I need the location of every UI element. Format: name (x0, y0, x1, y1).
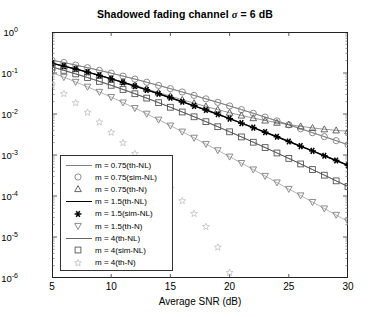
x-axis-label: Average SNR (dB) (52, 296, 348, 307)
legend-label: m = 0.75(sim-NL) (94, 173, 157, 182)
legend-key-line-grey (64, 159, 94, 171)
y-tick-label: 10-6 (0, 272, 18, 284)
legend-label: m = 1.5(th-N) (94, 222, 142, 231)
legend-marker-circle (73, 172, 83, 182)
y-tick-label: 10-4 (0, 190, 18, 202)
legend-line-sample (66, 165, 92, 166)
y-tick-label: 100 (0, 26, 18, 38)
x-tick-label: 20 (224, 281, 235, 292)
y-tick-label: 10-5 (0, 231, 18, 243)
legend-key-triangle-down (64, 220, 94, 232)
legend-marker-square (73, 245, 83, 255)
x-tick-label: 5 (49, 281, 55, 292)
legend-item[interactable]: m = 1.5(th-N) (61, 220, 172, 232)
legend-marker-star (73, 258, 83, 268)
chart-title-prefix: Shadowed fading channel (97, 8, 232, 20)
legend-key-square (64, 244, 94, 256)
legend-item[interactable]: m = 1.5(sim-NL) (61, 208, 172, 220)
legend-item[interactable]: m = 4(th-N) (61, 257, 172, 269)
legend-key-triangle-up (64, 183, 94, 195)
legend-label: m = 1.5(sim-NL) (94, 209, 153, 218)
figure: Shadowed fading channel σ = 6 dB Average… (0, 0, 370, 317)
legend-marker-asterisk (73, 209, 83, 219)
x-tick-label: 30 (342, 281, 353, 292)
legend-item[interactable]: m = 4(th-NL) (61, 232, 172, 244)
legend-key-line-black (64, 196, 94, 208)
legend-key-asterisk (64, 208, 94, 220)
legend-label: m = 1.5(th-NL) (94, 197, 147, 206)
legend-item[interactable]: m = 4(sim-NL) (61, 244, 172, 256)
legend-line-sample (66, 201, 92, 203)
y-tick-label: 10-1 (0, 67, 18, 79)
x-tick-label: 10 (106, 281, 117, 292)
chart-title-suffix: = 6 dB (238, 8, 273, 20)
legend-label: m = 4(th-N) (94, 258, 136, 267)
legend-marker-triangle-up (73, 184, 83, 194)
x-tick-label: 25 (283, 281, 294, 292)
legend-key-star (64, 257, 94, 269)
chart-title: Shadowed fading channel σ = 6 dB (0, 8, 370, 20)
legend-marker-triangle-down (73, 221, 83, 231)
legend-label: m = 0.75(th-NL) (94, 161, 151, 170)
legend-item[interactable]: m = 0.75(th-N) (61, 183, 172, 195)
x-tick-label: 15 (165, 281, 176, 292)
legend-key-line-dark (64, 232, 94, 244)
legend: m = 0.75(th-NL)m = 0.75(sim-NL)m = 0.75(… (60, 155, 173, 271)
y-tick-label: 10-3 (0, 149, 18, 161)
legend-label: m = 0.75(th-N) (94, 185, 147, 194)
legend-line-sample (66, 238, 92, 239)
y-tick-label: 10-2 (0, 108, 18, 120)
legend-item[interactable]: m = 1.5(th-NL) (61, 196, 172, 208)
legend-key-circle (64, 171, 94, 183)
legend-label: m = 4(th-NL) (94, 234, 140, 243)
legend-item[interactable]: m = 0.75(th-NL) (61, 159, 172, 171)
legend-label: m = 4(sim-NL) (94, 246, 146, 255)
legend-item[interactable]: m = 0.75(sim-NL) (61, 171, 172, 183)
